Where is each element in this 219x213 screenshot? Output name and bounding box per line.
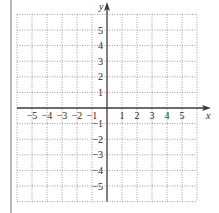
y-tick-label: −4 (92, 165, 103, 176)
y-tick-label: 3 (98, 56, 103, 67)
page-border (10, 0, 12, 213)
tick-labels: −5−4−3−2−11234554321−1−2−3−4−5xy (27, 1, 211, 192)
x-tick-label: 3 (150, 110, 155, 121)
y-axis-label: y (98, 1, 104, 12)
y-tick-label: 4 (98, 40, 103, 51)
y-tick-label: 2 (98, 71, 103, 82)
x-tick-label: 5 (180, 110, 185, 121)
x-tick-label: 4 (165, 110, 170, 121)
y-tick-label: 5 (98, 25, 103, 36)
x-tick-label: 2 (135, 110, 140, 121)
x-tick-label: −4 (42, 110, 53, 121)
y-tick-label: −1 (92, 118, 103, 129)
y-tick-label: −5 (92, 181, 103, 192)
coordinate-plane-figure: −5−4−3−2−11234554321−1−2−3−4−5xy (0, 0, 219, 213)
x-tick-label: −2 (72, 110, 83, 121)
x-tick-label: −5 (27, 110, 38, 121)
y-tick-label: −2 (92, 134, 103, 145)
x-tick-label: −3 (57, 110, 68, 121)
coordinate-plane: −5−4−3−2−11234554321−1−2−3−4−5xy (0, 0, 219, 213)
x-axis-label: x (205, 110, 211, 121)
y-tick-label: 1 (98, 87, 103, 98)
x-tick-label: 1 (120, 110, 125, 121)
y-tick-label: −3 (92, 149, 103, 160)
